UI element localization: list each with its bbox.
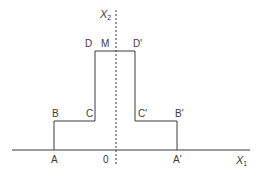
point-label-m: M: [101, 39, 109, 49]
step-profile-diagram: [0, 0, 256, 181]
point-label-a-prime: A': [173, 155, 182, 165]
point-label-c: C: [86, 109, 93, 119]
x2-axis-label: X2: [100, 9, 111, 23]
x1-axis-subscript: 1: [243, 160, 247, 167]
point-label-b-prime: B': [175, 109, 184, 119]
origin-label: 0: [103, 155, 109, 165]
point-label-a: A: [51, 155, 58, 165]
x2-axis-subscript: 2: [107, 14, 111, 21]
point-label-d: D: [85, 39, 92, 49]
point-label-b: B: [52, 109, 59, 119]
point-label-c-prime: C': [138, 109, 147, 119]
x1-axis-label: X1: [236, 155, 247, 169]
point-label-d-prime: D': [133, 39, 142, 49]
